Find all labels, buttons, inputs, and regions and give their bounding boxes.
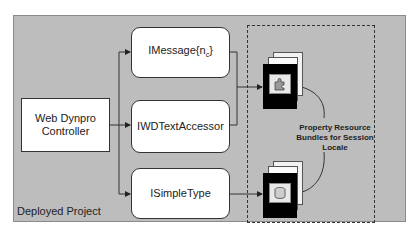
database-document-icon: [263, 161, 303, 219]
imessage-label: IMessage{nc}: [148, 44, 213, 61]
iwdtextaccessor-label: IWDTextAccessor: [137, 120, 224, 133]
isimpletype-label: ISimpleType: [150, 187, 211, 200]
controller-label-line1: Web Dynpro: [35, 112, 96, 125]
resource-bundles-label: Property Resource Bundles for Session Lo…: [292, 123, 378, 153]
puzzle-icon: [273, 77, 287, 91]
web-dynpro-controller-box: Web Dynpro Controller: [21, 98, 110, 152]
isimpletype-interface-box: ISimpleType: [131, 168, 230, 219]
puzzle-document-icon: [263, 52, 303, 110]
controller-label-line2: Controller: [35, 125, 96, 138]
iwdtextaccessor-interface-box: IWDTextAccessor: [131, 100, 230, 153]
deployed-project-label: Deployed Project: [17, 205, 101, 217]
database-icon: [273, 186, 287, 200]
imessage-interface-box: IMessage{nc}: [131, 27, 230, 78]
